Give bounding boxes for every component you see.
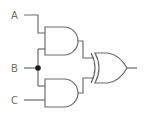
xor-gate [95, 53, 127, 83]
and-gate-1 [45, 27, 78, 55]
and-gate-2 [45, 79, 78, 107]
logic-circuit-diagram: A B C [0, 0, 147, 125]
wire-a [24, 15, 45, 33]
wire-and2-to-xor [78, 78, 94, 93]
input-label-c: C [11, 95, 18, 106]
input-label-a: A [11, 10, 18, 21]
input-label-b: B [11, 63, 18, 74]
junction-dot-icon [35, 65, 41, 71]
